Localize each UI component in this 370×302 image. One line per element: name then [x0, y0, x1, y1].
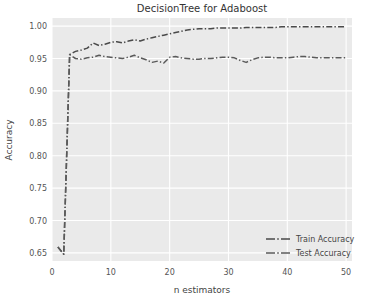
- y-tick-label-4: 0.85: [29, 119, 47, 128]
- x-tick-label-1: 10: [106, 268, 116, 277]
- x-axis-label: n estimators: [174, 285, 231, 295]
- y-tick-label-6: 0.95: [29, 55, 47, 64]
- legend-label-test: Test Accuracy: [295, 249, 351, 258]
- y-tick-label-0: 0.65: [29, 249, 47, 258]
- x-tick-label-2: 20: [165, 268, 175, 277]
- y-axis-label: Accuracy: [4, 119, 14, 161]
- x-tick-label-0: 0: [49, 268, 54, 277]
- chart-title: DecisionTree for Adaboost: [137, 3, 267, 14]
- plot-area-background: [52, 18, 352, 261]
- x-tick-label-5: 50: [341, 268, 351, 277]
- chart-figure: 0.650.700.750.800.850.900.951.00 0102030…: [0, 0, 370, 302]
- legend-label-train: Train Accuracy: [295, 235, 355, 244]
- x-tick-label-3: 30: [223, 268, 233, 277]
- y-tick-label-1: 0.70: [29, 217, 47, 226]
- y-tick-label-3: 0.80: [29, 152, 47, 161]
- y-tick-label-5: 0.90: [29, 87, 47, 96]
- x-tick-label-4: 40: [282, 268, 292, 277]
- accuracy-line-chart: 0.650.700.750.800.850.900.951.00 0102030…: [0, 0, 370, 302]
- y-tick-label-7: 1.00: [29, 22, 47, 31]
- y-tick-label-2: 0.75: [29, 184, 47, 193]
